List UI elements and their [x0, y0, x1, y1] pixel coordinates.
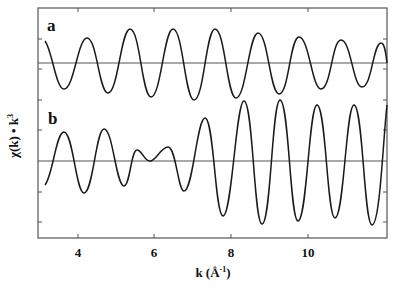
panel-label-b: b — [48, 110, 57, 127]
curve-a — [45, 29, 387, 100]
x-tick-label-4: 4 — [75, 246, 82, 259]
x-ticks — [78, 234, 308, 238]
x-axis-title: k (Å-1) — [195, 265, 230, 281]
y-axis-title-exponent: 3 — [6, 114, 15, 118]
x-axis-title-close: ) — [226, 265, 230, 280]
panel-label-a: a — [47, 17, 56, 34]
curve-b — [45, 100, 387, 225]
y-axis-title: χ(k) • k3 — [6, 114, 22, 158]
y-axis-title-main: χ(k) • k — [6, 118, 21, 158]
exafs-figure: a b 4 6 8 10 k (Å-1) χ(k) • k3 — [0, 0, 394, 292]
x-tick-label-6: 6 — [151, 246, 158, 259]
x-tick-label-10: 10 — [302, 246, 315, 259]
plot-area — [0, 0, 394, 292]
x-axis-title-exponent: -1 — [220, 265, 227, 274]
plot-frame — [38, 8, 387, 238]
x-tick-label-8: 8 — [228, 246, 235, 259]
x-axis-title-main: k (Å — [195, 265, 219, 280]
